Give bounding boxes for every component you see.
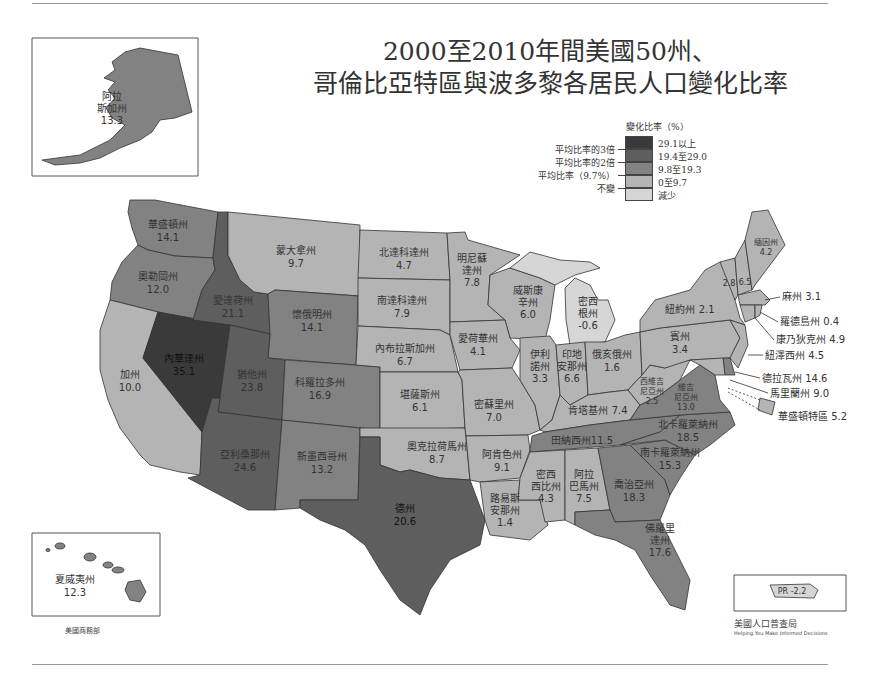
- label-kentucky: 肯塔基州 7.4: [568, 404, 627, 416]
- dc-marker[interactable]: [758, 398, 775, 415]
- label-florida: 佛羅里達州17.6: [645, 522, 675, 558]
- state-connecticut[interactable]: [740, 305, 755, 322]
- credit-census-tagline: Helping You Make Informed Decisions: [734, 630, 828, 636]
- label-dc: 華盛頓特區 5.2: [778, 410, 847, 422]
- label-michigan: 密西根州-0.6: [578, 295, 598, 331]
- hawaii-inset-frame: [32, 533, 160, 616]
- label-massachusetts: 麻州 3.1: [782, 290, 821, 302]
- state-rhode-island[interactable]: [755, 305, 762, 318]
- label-puerto-rico: PR -2.2: [778, 587, 807, 596]
- label-illinois: 伊利諾州3.3: [530, 349, 550, 384]
- label-maryland: 馬里蘭州 9.0: [770, 387, 829, 399]
- label-new-york: 紐約州 2.1: [665, 303, 714, 315]
- us-choropleth-map: 阿拉斯加州13.3 華盛頓州14.1 奧勒岡州12.0 加州10.0 內華達州3…: [0, 0, 878, 680]
- label-rhode-island: 羅德島州 0.4: [780, 315, 839, 327]
- credit-commerce: 美國商務部: [65, 625, 100, 635]
- credit-census: 美國人口普查局: [734, 617, 797, 630]
- label-new-hampshire: 6.5: [739, 278, 752, 287]
- label-delaware: 德拉瓦州 14.6: [762, 372, 827, 384]
- state-kansas[interactable]: [380, 372, 465, 430]
- label-connecticut: 康乃狄克州 4.9: [776, 333, 845, 345]
- label-tennessee: 田納西州11.5: [551, 434, 613, 446]
- label-vermont: 2.8: [723, 279, 736, 288]
- label-new-jersey: 紐澤西州 4.5: [765, 349, 824, 361]
